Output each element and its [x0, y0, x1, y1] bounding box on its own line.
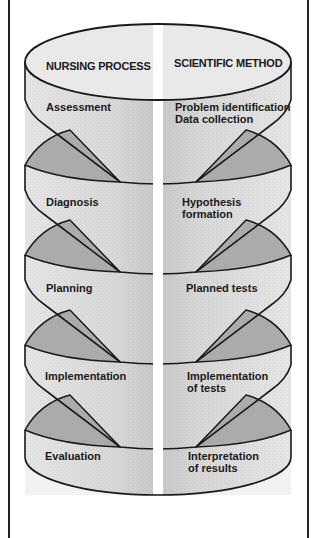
row-5-nursing: Evaluation	[45, 450, 101, 462]
header-nursing-process: NURSING PROCESS	[46, 60, 151, 72]
row-3-nursing: Planning	[46, 282, 92, 294]
row-4-scientific: Implementation of tests	[187, 370, 268, 394]
row-2-scientific: Hypothesis formation	[182, 196, 241, 220]
row-1-scientific: Problem identification Data collection	[175, 101, 291, 125]
row-2-nursing: Diagnosis	[46, 196, 99, 208]
row-1-nursing: Assessment	[46, 101, 111, 113]
row-3-scientific: Planned tests	[186, 282, 258, 294]
row-4-nursing: Implementation	[45, 370, 126, 382]
row-5-scientific: Interpretation of results	[188, 450, 259, 474]
header-scientific-method: SCIENTIFIC METHOD	[174, 57, 282, 69]
